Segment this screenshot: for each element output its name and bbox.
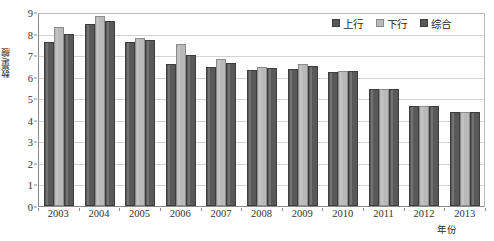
bar-highlight xyxy=(178,45,180,205)
legend-item[interactable]: 下行 xyxy=(376,16,407,31)
bar-group xyxy=(80,13,121,206)
bar-highlight xyxy=(381,90,383,205)
bar xyxy=(105,21,115,206)
bar xyxy=(206,67,216,206)
bar xyxy=(369,89,379,206)
legend-item[interactable]: 上行 xyxy=(332,16,363,31)
bar-highlight xyxy=(127,43,129,205)
bar-highlight xyxy=(66,35,68,205)
bar-highlight xyxy=(218,60,220,205)
y-tick-label: 1 xyxy=(28,180,33,191)
x-axis-title: 年份 xyxy=(437,222,493,236)
x-tick-mark xyxy=(160,208,161,211)
bar xyxy=(247,70,257,206)
x-tick-mark xyxy=(444,208,445,211)
bar-groups xyxy=(39,13,485,206)
legend-swatch-icon xyxy=(332,19,340,27)
x-tick-label: 2008 xyxy=(241,208,282,228)
y-tick-mark xyxy=(34,13,37,14)
x-tick-label: 2010 xyxy=(322,208,363,228)
y-tick-label: 6 xyxy=(28,72,33,83)
bar-highlight xyxy=(290,70,292,205)
y-tick-label: 9 xyxy=(28,8,33,19)
bar xyxy=(288,69,298,206)
bar xyxy=(348,71,358,206)
legend-label: 综合 xyxy=(431,16,451,31)
y-tick-mark xyxy=(34,99,37,100)
bar-highlight xyxy=(137,39,139,205)
y-tick-label: 7 xyxy=(28,51,33,62)
x-tick-mark xyxy=(79,208,80,211)
plot-area xyxy=(38,13,485,207)
bar xyxy=(125,42,135,206)
bar-highlight xyxy=(56,28,58,205)
x-tick-mark xyxy=(282,208,283,211)
y-tick-mark xyxy=(34,142,37,143)
legend-item[interactable]: 综合 xyxy=(420,16,451,31)
y-tick-mark xyxy=(34,185,37,186)
bar-group xyxy=(120,13,161,206)
x-tick-label: 2009 xyxy=(282,208,323,228)
x-tick-label: 2007 xyxy=(201,208,242,228)
bar xyxy=(379,89,389,206)
bar xyxy=(328,72,338,206)
bar-highlight xyxy=(340,72,342,205)
x-tick-mark xyxy=(201,208,202,211)
bar xyxy=(186,55,196,206)
y-tick-mark xyxy=(34,120,37,121)
x-tick-label: 2005 xyxy=(119,208,160,228)
y-tick-label: 4 xyxy=(28,115,33,126)
x-tick-mark xyxy=(485,208,486,211)
bar-highlight xyxy=(269,69,271,205)
bar-group xyxy=(242,13,283,206)
y-tick-mark xyxy=(34,77,37,78)
bar xyxy=(216,59,226,206)
y-tick-label: 0 xyxy=(28,202,33,213)
bar-highlight xyxy=(147,41,149,205)
y-axis-title: 数量/艘 xyxy=(0,28,13,98)
bar xyxy=(450,112,460,206)
x-tick-mark xyxy=(119,208,120,211)
bar-highlight xyxy=(472,113,474,205)
bar-group xyxy=(444,13,485,206)
y-tick-mark xyxy=(34,207,37,208)
x-tick-mark xyxy=(38,208,39,211)
bar-highlight xyxy=(87,25,89,205)
x-tick-label: 2003 xyxy=(38,208,79,228)
bar-highlight xyxy=(391,90,393,205)
bar-chart-figure: 数量/艘 0123456789 200320042005200620072008… xyxy=(0,0,494,241)
bar-group xyxy=(201,13,242,206)
bar-highlight xyxy=(46,43,48,205)
bar xyxy=(44,42,54,206)
bar xyxy=(226,63,236,206)
bar-highlight xyxy=(350,72,352,205)
y-tick-label: 5 xyxy=(28,94,33,105)
y-tick-mark xyxy=(34,34,37,35)
bar-highlight xyxy=(168,65,170,205)
bar xyxy=(267,68,277,206)
bar-highlight xyxy=(188,56,190,205)
bar xyxy=(64,34,74,206)
bar xyxy=(95,16,105,206)
chart-legend: 上行下行综合 xyxy=(326,13,457,33)
bar-highlight xyxy=(452,113,454,205)
bar-group xyxy=(363,13,404,206)
y-tick-label: 8 xyxy=(28,29,33,40)
bar xyxy=(429,106,439,206)
legend-swatch-icon xyxy=(376,19,384,27)
bar xyxy=(145,40,155,206)
y-tick-mark xyxy=(34,163,37,164)
x-axis-tick-labels: 2003200420052006200720082009201020112012… xyxy=(38,208,485,228)
bar xyxy=(298,64,308,206)
bar-group xyxy=(39,13,80,206)
bar-highlight xyxy=(371,90,373,205)
bar-highlight xyxy=(208,68,210,205)
x-tick-label: 2004 xyxy=(79,208,120,228)
bar-highlight xyxy=(259,68,261,205)
x-tick-mark xyxy=(241,208,242,211)
bar-highlight xyxy=(411,107,413,205)
y-axis-tick-labels: 0123456789 xyxy=(15,0,37,241)
bar-highlight xyxy=(310,67,312,205)
bar-highlight xyxy=(421,107,423,205)
bar xyxy=(460,112,470,206)
